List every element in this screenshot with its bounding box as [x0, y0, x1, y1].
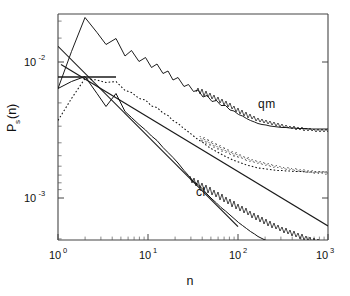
- y-axis-title-tail: (n): [5, 104, 19, 119]
- xtick-label-1e2-exponent: 2: [243, 246, 247, 255]
- reference-line-fit: [61, 64, 328, 226]
- ytick-label-1e-3-mantissa: 10: [24, 192, 36, 204]
- series-middle-dotted-path: [58, 79, 328, 173]
- annotation-qm: qm: [258, 97, 276, 111]
- x-axis-ticks: [58, 234, 328, 240]
- xtick-label-1e3-mantissa: 10: [316, 249, 328, 261]
- xtick-label-1e0-mantissa: 10: [49, 249, 61, 261]
- xtick-label-1e3: 10 3: [316, 246, 334, 261]
- series-qm-path: [58, 18, 328, 130]
- ytick-label-1e-2-exponent: -2: [39, 53, 46, 62]
- xtick-label-1e2-mantissa: 10: [229, 249, 241, 261]
- y-axis-ticks: [58, 62, 328, 198]
- xtick-label-1e0: 10 0: [49, 246, 67, 261]
- loglog-plot: 10 -2 10 -3 10 0 10 1 10 2 10 3 P s (n): [0, 0, 350, 296]
- annotation-cl: cl: [196, 185, 206, 199]
- xtick-label-1e1-mantissa: 10: [139, 249, 151, 261]
- xtick-label-1e1: 10 1: [139, 246, 157, 261]
- reference-line-steep: [58, 46, 238, 226]
- xtick-label-1e3-exponent: 3: [330, 246, 334, 255]
- ytick-label-1e-3-exponent: -3: [39, 189, 46, 198]
- ytick-label-1e-2-mantissa: 10: [24, 56, 36, 68]
- ytick-label-1e-3: 10 -3: [24, 189, 45, 204]
- y-axis-title-subscript: s: [13, 120, 22, 124]
- xtick-label-1e2: 10 2: [229, 246, 247, 261]
- xtick-label-1e1-exponent: 1: [153, 246, 157, 255]
- series-cl-path: [58, 77, 328, 255]
- ytick-label-1e-2: 10 -2: [24, 53, 45, 68]
- xtick-label-1e0-exponent: 0: [63, 246, 67, 255]
- x-axis-title: n: [187, 274, 194, 288]
- series-cl-noise: [190, 176, 328, 247]
- y-axis-title: P s (n): [5, 104, 22, 132]
- figure-container: 10 -2 10 -3 10 0 10 1 10 2 10 3 P s (n): [0, 0, 350, 296]
